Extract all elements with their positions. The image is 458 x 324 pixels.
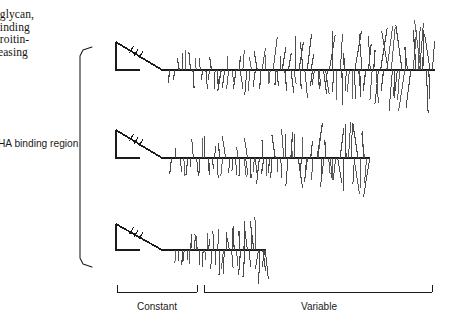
gag-side-chain <box>345 70 346 91</box>
variable-region-label: Variable <box>206 301 432 312</box>
gag-side-chain <box>177 58 179 70</box>
ha-binding-region-brace <box>80 47 92 267</box>
gag-side-chain <box>182 250 183 265</box>
gag-side-chain <box>406 70 411 108</box>
gag-side-chain <box>245 70 247 95</box>
gag-side-chain <box>338 158 342 183</box>
gag-side-chain <box>170 158 172 174</box>
gag-side-chain <box>199 58 200 70</box>
gag-side-chain <box>305 70 308 98</box>
caption-text: oglycan, binding droitin- reasing <box>0 8 72 58</box>
gag-side-chain <box>250 250 251 267</box>
gag-side-chain <box>353 123 358 158</box>
gag-side-chain <box>363 70 366 91</box>
gag-side-chain <box>210 57 212 70</box>
bracket-variable <box>204 285 432 292</box>
gag-side-chain <box>311 141 313 158</box>
gag-side-chain <box>311 158 313 180</box>
gag-side-chain <box>307 34 311 70</box>
gag-side-chain <box>218 229 219 250</box>
gag-side-chain <box>222 70 224 88</box>
gag-side-chain <box>232 70 234 82</box>
gag-side-chain <box>261 158 263 174</box>
gag-side-chain <box>248 70 249 91</box>
gag-side-chain <box>282 47 286 70</box>
molecule-medium <box>115 122 370 197</box>
gag-side-chain <box>212 158 213 169</box>
gag-side-chain <box>236 250 237 266</box>
gag-side-chain <box>197 158 199 176</box>
gag-side-chain <box>288 53 291 70</box>
gag-side-chain <box>189 52 191 70</box>
caption-line-2: binding <box>0 21 72 34</box>
gag-side-chain <box>351 123 353 158</box>
gag-side-chain <box>229 158 230 173</box>
gag-side-chain <box>319 70 320 86</box>
caption-line-4: reasing <box>0 46 72 59</box>
gag-side-chain <box>243 250 245 277</box>
gag-side-chain <box>257 158 260 184</box>
gag-side-chain <box>243 50 244 70</box>
gag-side-chain <box>360 70 361 96</box>
gag-side-chain <box>319 70 320 89</box>
gag-side-chain <box>192 139 194 158</box>
gag-side-chain <box>325 140 326 158</box>
gag-side-chain <box>364 158 370 197</box>
gag-side-chain <box>280 56 281 70</box>
globule-hypotenuse <box>116 130 162 158</box>
gag-side-chain <box>295 36 296 70</box>
gag-side-chain <box>352 70 353 99</box>
gag-side-chain <box>214 145 216 158</box>
gag-side-chain <box>425 34 431 70</box>
gag-side-chain <box>273 37 277 70</box>
gag-side-chain <box>255 217 256 250</box>
gag-side-chain <box>398 70 400 100</box>
gag-side-chain <box>205 250 206 260</box>
gag-side-chain <box>318 128 321 158</box>
gag-side-chain <box>389 70 392 111</box>
gag-side-chain <box>208 240 209 250</box>
globule-hypotenuse <box>116 42 162 70</box>
gag-side-chain <box>353 158 355 184</box>
gag-side-chain <box>221 158 223 176</box>
gag-side-chain <box>227 238 229 250</box>
gag-side-chain <box>262 140 263 158</box>
gag-side-chain <box>396 25 402 70</box>
gag-side-chain <box>354 70 356 99</box>
caption-line-1: oglycan, <box>0 8 72 21</box>
gag-side-chain <box>265 55 266 70</box>
gag-side-chain <box>169 70 170 83</box>
gag-side-chain <box>222 136 225 158</box>
gag-side-chain <box>208 70 209 80</box>
gag-side-chain <box>173 70 174 80</box>
brace-path <box>80 47 92 267</box>
figure-canvas: oglycan, binding droitin- reasing HA bin… <box>0 0 458 324</box>
gag-side-chain <box>285 70 287 91</box>
gag-side-chain <box>183 250 184 261</box>
gag-side-chain <box>271 158 272 178</box>
ha-binding-region-label: HA binding region <box>0 138 84 149</box>
gag-side-chain <box>381 28 388 70</box>
gag-side-chain <box>191 234 192 250</box>
gag-side-chain <box>432 41 434 70</box>
gag-side-chain <box>227 70 229 89</box>
gag-side-chain <box>206 70 208 89</box>
gag-side-chain <box>254 51 257 70</box>
gag-side-chain <box>175 250 176 263</box>
molecule-short <box>115 217 268 284</box>
gag-side-chain <box>329 158 330 174</box>
gag-side-chain <box>207 233 208 250</box>
gag-side-chain <box>195 58 196 70</box>
gag-side-chain <box>232 250 234 268</box>
gag-side-chain <box>218 70 219 84</box>
gag-side-chain <box>333 158 336 180</box>
gag-side-chain <box>262 48 265 70</box>
gag-side-chain <box>265 250 268 279</box>
gag-side-chain <box>282 129 284 158</box>
gag-side-chain <box>381 70 384 91</box>
gag-side-chain <box>359 34 362 70</box>
gag-side-chain <box>232 158 233 171</box>
gag-side-chain <box>237 147 238 158</box>
caption-line-3: droitin- <box>0 33 72 46</box>
gag-side-chain <box>236 158 237 175</box>
